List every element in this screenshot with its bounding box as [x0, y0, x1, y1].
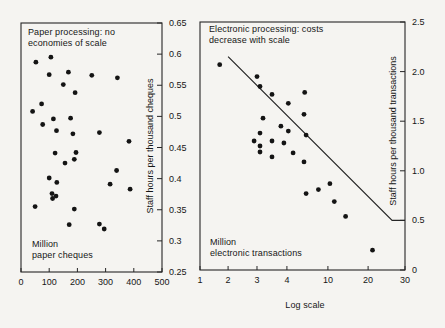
y-tick-label: 0.5: [412, 215, 425, 225]
data-point: [217, 62, 222, 67]
data-point: [328, 181, 333, 186]
right-chart-title: Electronic processing: costs decrease wi…: [209, 24, 323, 46]
charts-canvas: 01002003004005000.650.60.550.50.450.40.3…: [0, 0, 445, 328]
data-point: [255, 74, 260, 79]
y-tick-label: 2.0: [412, 67, 425, 77]
data-point: [370, 248, 375, 253]
data-point: [286, 129, 291, 134]
data-point: [270, 139, 275, 144]
x-tick-label: 500: [154, 277, 169, 287]
data-point: [108, 182, 113, 187]
data-point: [33, 204, 38, 209]
data-point: [73, 90, 78, 95]
data-point: [49, 55, 54, 60]
data-point: [63, 161, 68, 166]
data-point: [71, 131, 76, 136]
data-point: [282, 141, 287, 146]
x-tick-label: 30: [400, 275, 410, 285]
data-point: [51, 117, 56, 122]
data-point: [97, 130, 102, 135]
right-chart-title-line2: decrease with scale: [209, 35, 323, 46]
data-point: [66, 70, 71, 75]
y-tick-label: 2.5: [412, 17, 425, 27]
y-tick-label: 0.6: [169, 49, 182, 59]
data-point: [252, 139, 257, 144]
figure: 01002003004005000.650.60.550.50.450.40.3…: [0, 0, 445, 328]
data-point: [258, 131, 263, 136]
data-point: [302, 160, 307, 165]
data-point: [61, 82, 66, 87]
x-tick-label: 300: [98, 277, 113, 287]
data-point: [286, 101, 291, 106]
plot-box: [21, 23, 162, 272]
left-chart-title-line1: Paper processing: no: [28, 27, 115, 38]
data-point: [68, 116, 73, 121]
y-tick-label: 0.65: [169, 18, 187, 28]
data-point: [50, 191, 55, 196]
data-point: [114, 168, 119, 173]
data-point: [102, 227, 107, 232]
data-point: [261, 116, 266, 121]
data-point: [72, 207, 77, 212]
data-point: [302, 112, 307, 117]
y-tick-label: 0: [412, 265, 417, 275]
data-point: [47, 176, 52, 181]
data-point: [67, 222, 72, 227]
x-tick-label: 200: [70, 277, 85, 287]
data-point: [89, 73, 94, 78]
data-point: [34, 60, 39, 65]
right-chart-corner-label: Million electronic transactions: [210, 237, 302, 259]
x-tick-label: 2: [226, 275, 231, 285]
data-point: [128, 187, 133, 192]
right-chart-title-line1: Electronic processing: costs: [209, 24, 323, 35]
data-point: [47, 72, 52, 77]
y-tick-label: 1.5: [412, 116, 425, 126]
data-point: [258, 150, 263, 155]
data-point: [115, 75, 120, 80]
data-point: [316, 187, 321, 192]
x-tick-label: 100: [42, 277, 57, 287]
data-point: [279, 124, 284, 129]
x-tick-label: 10: [323, 275, 333, 285]
data-point: [304, 133, 309, 138]
left-chart-corner-label-line2: paper cheques: [32, 250, 93, 261]
data-point: [50, 196, 55, 201]
data-point: [304, 191, 309, 196]
left-chart-title-line2: economies of scale: [28, 38, 115, 49]
data-point: [72, 157, 77, 162]
y-tick-label: 1.0: [412, 166, 425, 176]
y-tick-label: 0.3: [169, 236, 182, 246]
left-chart-corner-label: Million paper cheques: [32, 239, 93, 261]
y-tick-label: 0.35: [169, 205, 187, 215]
left-chart-y-axis-label: Staff hours per thousand cheques: [145, 26, 157, 266]
right-chart-corner-label-line2: electronic transactions: [210, 248, 302, 259]
data-point: [40, 122, 45, 127]
data-point: [97, 222, 102, 227]
data-point: [270, 155, 275, 160]
data-point: [127, 139, 132, 144]
right-chart-corner-label-line1: Million: [210, 237, 302, 248]
y-tick-label: 0.5: [169, 111, 182, 121]
data-point: [74, 150, 79, 155]
y-tick-label: 0.45: [169, 143, 187, 153]
left-chart-corner-label-line1: Million: [32, 239, 93, 250]
x-tick-label: 400: [126, 277, 141, 287]
data-point: [291, 151, 296, 156]
data-point: [54, 180, 59, 185]
data-point: [53, 151, 58, 156]
data-point: [343, 214, 348, 219]
x-tick-label: 3: [254, 275, 259, 285]
right-chart-x-axis-label: Log scale: [257, 300, 353, 311]
data-point: [54, 128, 59, 133]
data-point: [258, 84, 263, 89]
data-point: [258, 144, 263, 149]
x-tick-label: 20: [363, 275, 373, 285]
right-chart-y-axis-label: Staff hours per thousand transactions: [388, 11, 400, 251]
y-tick-label: 0.25: [169, 267, 187, 277]
left-chart-title: Paper processing: no economies of scale: [28, 27, 115, 49]
data-point: [30, 109, 35, 114]
data-point: [302, 90, 307, 95]
trend-line: [228, 57, 405, 221]
data-point: [332, 199, 337, 204]
data-point: [270, 92, 275, 97]
